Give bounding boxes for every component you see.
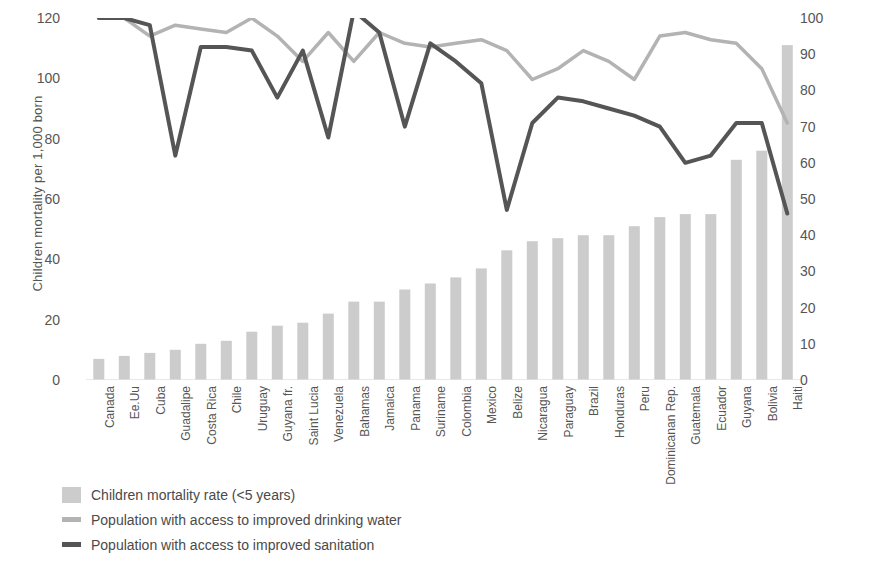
x-axis-tick-label: Chile — [231, 386, 243, 413]
bar — [246, 332, 257, 380]
bar — [170, 350, 181, 380]
chart-root: Children mortality per 1,000 born % popu… — [0, 0, 873, 568]
x-axis-labels: CanadaEe.UuCubaGuadalipeCosta RicaChileU… — [86, 384, 800, 480]
y-axis-left-ticks: 120100806040200 — [22, 0, 60, 400]
bar — [603, 235, 614, 380]
bar — [527, 241, 538, 380]
legend-line-swatch — [62, 542, 81, 547]
bar — [629, 226, 640, 380]
axis-tick-label: 40 — [22, 252, 60, 266]
x-axis-tick-label: Dominicanan Rep. — [665, 386, 677, 485]
x-axis-tick-label: Nicaragua — [537, 386, 549, 441]
x-axis-tick-label: Venezuela — [333, 386, 345, 442]
legend-line-swatch — [62, 517, 81, 522]
axis-tick-label: 80 — [22, 132, 60, 146]
axis-tick-label: 70 — [800, 120, 838, 134]
bar — [756, 151, 767, 380]
axis-tick-label: 90 — [800, 47, 838, 61]
legend-label: Children mortality rate (<5 years) — [91, 487, 295, 503]
bar — [476, 268, 487, 380]
bar — [399, 290, 410, 381]
x-axis-tick-label: Bahamas — [359, 386, 371, 437]
axis-tick-label: 60 — [800, 156, 838, 170]
y-axis-right-ticks: 1009080706050403020100 — [800, 0, 838, 400]
x-axis-tick-label: Canada — [104, 386, 116, 428]
x-axis-tick-label: Honduras — [614, 386, 626, 438]
x-axis-tick-label: Costa Rica — [206, 386, 218, 445]
x-axis-tick-label: Peru — [639, 386, 651, 411]
bar — [221, 341, 232, 380]
x-axis-tick-label: Ee.Uu — [129, 386, 141, 419]
x-axis-tick-label: Brazil — [588, 386, 600, 416]
bar — [297, 323, 308, 380]
data-line — [99, 18, 788, 123]
legend-item: Children mortality rate (<5 years) — [62, 484, 762, 505]
bar — [450, 277, 461, 380]
axis-tick-label: 10 — [800, 337, 838, 351]
axis-tick-label: 0 — [22, 373, 60, 387]
legend-label: Population with access to improved drink… — [91, 512, 402, 528]
x-axis-tick-label: Guadalipe — [180, 386, 192, 441]
x-axis-tick-label: Guatemala — [690, 386, 702, 445]
x-axis-tick-label: Jamaica — [384, 386, 396, 431]
axis-tick-label: 20 — [22, 313, 60, 327]
bar — [195, 344, 206, 380]
bar — [348, 302, 359, 380]
bar — [578, 235, 589, 380]
chart-canvas — [86, 18, 800, 380]
bar — [144, 353, 155, 380]
x-axis-tick-label: Panama — [410, 386, 422, 431]
bar — [272, 326, 283, 380]
x-axis-tick-label: Bolivia — [767, 386, 779, 421]
bar — [552, 238, 563, 380]
axis-tick-label: 20 — [800, 301, 838, 315]
bar — [374, 302, 385, 380]
x-axis-tick-label: Uruguay — [257, 386, 269, 431]
bar — [501, 250, 512, 380]
bar — [323, 314, 334, 380]
chart-legend: Children mortality rate (<5 years)Popula… — [62, 484, 762, 559]
x-axis-tick-label: Mexico — [486, 386, 498, 424]
axis-tick-label: 0 — [800, 373, 838, 387]
axis-tick-label: 100 — [22, 71, 60, 85]
plot-area — [86, 18, 800, 380]
x-axis-tick-label: Guyana fr. — [282, 386, 294, 441]
x-axis-tick-label: Colombia — [461, 386, 473, 437]
axis-tick-label: 40 — [800, 228, 838, 242]
bar — [731, 160, 742, 380]
x-axis-tick-label: Cuba — [155, 386, 167, 415]
axis-tick-label: 100 — [800, 11, 838, 25]
legend-label: Population with access to improved sanit… — [91, 537, 374, 553]
axis-tick-label: 80 — [800, 83, 838, 97]
axis-tick-label: 120 — [22, 11, 60, 25]
x-axis-tick-label: Ecuador — [716, 386, 728, 431]
x-axis-tick-label: Paraguay — [563, 386, 575, 437]
x-axis-tick-label: Saint Lucia — [308, 386, 320, 445]
bar — [705, 214, 716, 380]
axis-tick-label: 60 — [22, 192, 60, 206]
x-axis-tick-label: Haiti — [792, 386, 804, 410]
data-line — [99, 18, 788, 213]
axis-tick-label: 50 — [800, 192, 838, 206]
bar — [654, 217, 665, 380]
legend-item: Population with access to improved sanit… — [62, 534, 762, 555]
bar — [93, 359, 104, 380]
x-axis-tick-label: Belize — [512, 386, 524, 419]
x-axis-tick-label: Guyana — [741, 386, 753, 428]
bar — [680, 214, 691, 380]
bar — [119, 356, 130, 380]
x-axis-tick-label: Suriname — [435, 386, 447, 437]
legend-bar-swatch — [62, 487, 81, 503]
axis-tick-label: 30 — [800, 264, 838, 278]
bar — [425, 284, 436, 381]
legend-item: Population with access to improved drink… — [62, 509, 762, 530]
